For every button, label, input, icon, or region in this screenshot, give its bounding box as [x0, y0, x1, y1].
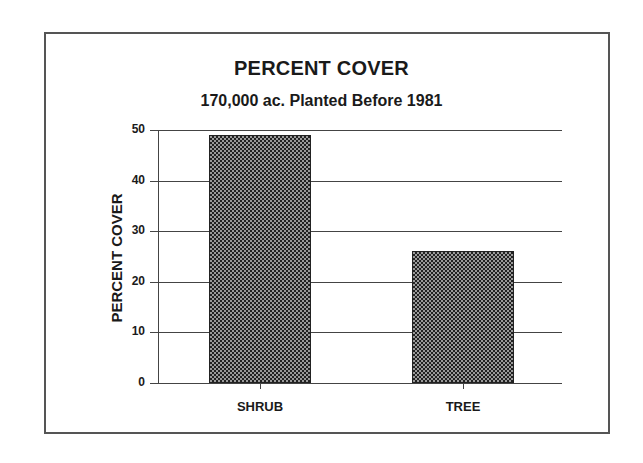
- y-axis-line: [158, 130, 159, 383]
- gridline: [150, 130, 562, 131]
- y-tick-label: 30: [115, 223, 145, 237]
- y-tick-label: 0: [115, 375, 145, 389]
- bar-shrub: [209, 135, 311, 383]
- x-axis-line: [150, 383, 562, 384]
- bar-tree: [412, 251, 514, 383]
- y-tick-label: 20: [115, 274, 145, 288]
- y-tick-label: 50: [115, 122, 145, 136]
- x-tick-label-shrub: SHRUB: [210, 399, 310, 414]
- y-tick-label: 40: [115, 173, 145, 187]
- y-axis-label: PERCENT COVER: [108, 193, 125, 322]
- chart-title: PERCENT COVER: [0, 57, 643, 80]
- x-tick-label-tree: TREE: [413, 399, 513, 414]
- y-tick-label: 10: [115, 324, 145, 338]
- chart-subtitle: 170,000 ac. Planted Before 1981: [0, 92, 643, 110]
